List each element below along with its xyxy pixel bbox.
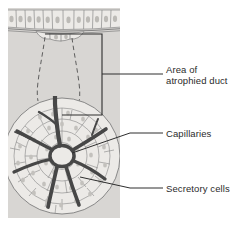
label-cap-line1: Capillaries [166, 128, 211, 139]
label-sec-line1: Secretory cells [166, 183, 230, 194]
label-duct-line2: atrophied duct [166, 75, 228, 86]
diagram-canvas [0, 0, 247, 231]
label-area-of-atrophied-duct: Area of atrophied duct [166, 64, 228, 86]
label-capillaries: Capillaries [166, 128, 211, 139]
gland-diagram-figure: Area of atrophied duct Capillaries Secre… [0, 0, 247, 231]
label-secretory-cells: Secretory cells [166, 183, 230, 194]
label-duct-line1: Area of [166, 64, 228, 75]
